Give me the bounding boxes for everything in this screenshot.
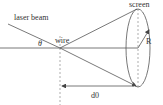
radius-label: R xyxy=(146,38,151,46)
angle-label: θ xyxy=(38,40,42,48)
cone-lower-line xyxy=(60,48,136,86)
cone-upper-line xyxy=(60,9,137,48)
distance-label: d0 xyxy=(91,92,99,100)
laser-beam-line xyxy=(8,24,60,48)
wire-label: wire xyxy=(55,37,69,45)
screen-label: screen xyxy=(129,1,149,9)
laser-beam-label: laser beam xyxy=(14,14,48,22)
